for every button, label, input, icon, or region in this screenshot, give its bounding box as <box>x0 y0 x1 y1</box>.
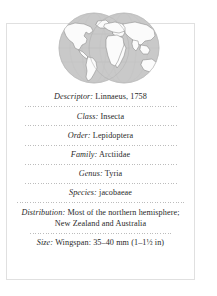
row-species-value: jacobaeae <box>99 188 132 197</box>
row-genus-value: Tyria <box>105 169 123 178</box>
row-order: Order: Lepidoptera <box>11 126 190 144</box>
row-genus: Genus: Tyria <box>11 165 190 183</box>
row-class-label: Class: <box>77 112 98 121</box>
row-distribution: Distribution: Most of the northern hemis… <box>11 203 190 233</box>
row-species-label: Species: <box>69 188 97 197</box>
row-class: Class: Insecta <box>11 107 190 125</box>
world-map-icon <box>53 12 165 84</box>
row-species: Species: jacobaeae <box>11 184 190 202</box>
row-descriptor-label: Descriptor: <box>54 92 93 101</box>
row-genus-label: Genus: <box>79 169 103 178</box>
row-family: Family: Arctiidae <box>11 146 190 164</box>
row-family-value: Arctiidae <box>99 150 130 159</box>
row-descriptor-value: Linnaeus, 1758 <box>95 92 147 101</box>
row-distribution-label: Distribution: <box>21 208 65 217</box>
row-distribution-value: Most of the northern hemisphere; New Zea… <box>55 208 180 228</box>
row-descriptor: Descriptor: Linnaeus, 1758 <box>11 88 190 106</box>
row-size-value: Wingspan: 35–40 mm (1–1½ in) <box>55 238 164 247</box>
row-size: Size: Wingspan: 35–40 mm (1–1½ in) <box>11 234 190 252</box>
row-order-label: Order: <box>68 131 91 140</box>
row-size-label: Size: <box>37 238 53 247</box>
row-order-value: Lepidoptera <box>93 131 133 140</box>
taxonomy-rows: Descriptor: Linnaeus, 1758 Class: Insect… <box>6 88 195 252</box>
row-family-label: Family: <box>71 150 97 159</box>
row-class-value: Insecta <box>100 112 124 121</box>
